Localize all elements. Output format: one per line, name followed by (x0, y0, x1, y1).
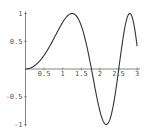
y-tick-label: 1 (18, 10, 22, 18)
x-tick-label: 2 (98, 70, 102, 78)
line-chart: 0.511.522.53-1-0.50.51 (0, 0, 149, 134)
y-tick-label: 0.5 (10, 38, 23, 46)
x-tick-label: 1.5 (75, 70, 88, 78)
x-tick-label: 0.5 (38, 70, 51, 78)
y-tick-label: -0.5 (6, 93, 23, 101)
y-tick-label: -1 (14, 121, 22, 129)
x-tick-label: 1 (61, 70, 65, 78)
x-tick-label: 3 (135, 70, 139, 78)
